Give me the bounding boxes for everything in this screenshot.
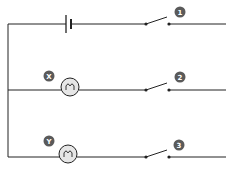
- middle-branch: X 2: [8, 71, 226, 97]
- switch-badge-2: 2: [175, 72, 186, 83]
- bulb-y-icon: [59, 145, 77, 163]
- top-branch: 1: [8, 7, 226, 34]
- battery-icon: [66, 15, 71, 33]
- svg-text:Y: Y: [45, 138, 52, 146]
- svg-text:1: 1: [178, 9, 183, 17]
- switch-2[interactable]: [144, 83, 170, 92]
- bulb-badge-y: Y: [44, 136, 55, 147]
- svg-text:2: 2: [178, 74, 183, 82]
- switch-badge-1: 1: [175, 7, 186, 18]
- switch-3[interactable]: [144, 150, 170, 159]
- switch-1[interactable]: [144, 17, 170, 26]
- circuit-diagram: 1 X 2 Y: [0, 0, 226, 169]
- svg-text:X: X: [46, 73, 52, 81]
- bulb-badge-x: X: [44, 71, 55, 82]
- bottom-branch: Y 3: [8, 136, 226, 164]
- switch-badge-3: 3: [174, 140, 185, 151]
- bulb-x-icon: [61, 78, 79, 96]
- svg-text:3: 3: [177, 142, 182, 150]
